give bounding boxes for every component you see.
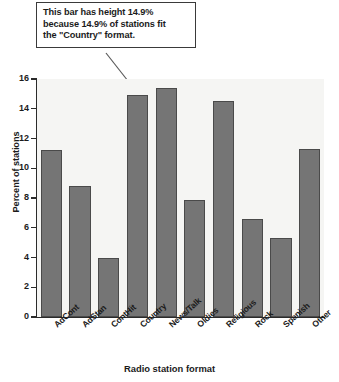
y-axis-tick-label: 10	[5, 162, 29, 172]
annotation-line-2: because 14.9% of stations fit	[43, 19, 190, 31]
annotation-line-3: the "Country" format.	[43, 30, 190, 42]
bar-country	[127, 95, 148, 317]
y-axis-tick	[31, 138, 36, 139]
y-axis-tick-label: 14	[5, 103, 29, 113]
y-axis-tick	[31, 316, 36, 317]
y-axis-tick-label: 6	[5, 222, 29, 232]
bar-adstan	[69, 186, 90, 317]
y-axis-tick	[31, 108, 36, 109]
y-axis-tick-label: 12	[5, 133, 29, 143]
y-axis-tick-label: 2	[5, 281, 29, 291]
y-axis-tick	[31, 78, 36, 79]
bar-chart-figure: This bar has height 14.9% because 14.9% …	[0, 0, 339, 382]
bar-news-talk	[156, 88, 177, 317]
y-axis-tick	[31, 168, 36, 169]
y-axis-tick-label: 8	[5, 192, 29, 202]
y-axis-tick-label: 0	[5, 311, 29, 321]
x-axis-title: Radio station format	[0, 363, 339, 374]
y-axis-tick	[31, 257, 36, 258]
y-axis-tick	[31, 227, 36, 228]
annotation-line-1: This bar has height 14.9%	[43, 7, 190, 19]
y-axis-tick	[31, 197, 36, 198]
y-axis-tick	[31, 287, 36, 288]
y-axis-tick-label: 4	[5, 252, 29, 262]
bars-group	[37, 79, 324, 317]
y-axis-tick-label: 16	[5, 73, 29, 83]
bar-adcont	[41, 150, 62, 317]
annotation-callout: This bar has height 14.9% because 14.9% …	[36, 2, 196, 48]
bar-other	[299, 149, 320, 317]
bar-religious	[213, 101, 234, 317]
bar-spanish	[270, 238, 291, 317]
